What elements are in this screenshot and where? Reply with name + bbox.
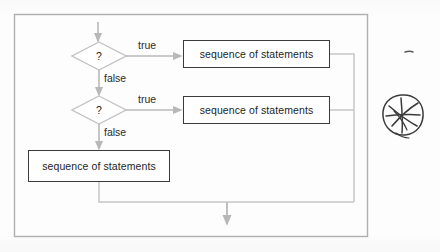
process2-label: sequence of statements [200, 104, 314, 116]
decision2-label: ? [96, 104, 102, 116]
edge-label-decision1-true: true [138, 40, 156, 51]
edge-label-decision2-true: true [138, 94, 156, 105]
edge-label-decision1-false: false [104, 73, 126, 84]
decision1-label: ? [96, 50, 102, 62]
process1-label: sequence of statements [200, 48, 314, 60]
decision2-node: ? [72, 96, 126, 124]
flowchart-graphics [0, 0, 440, 252]
process1-exit-connector [330, 54, 354, 202]
process3-label: sequence of statements [42, 160, 156, 172]
process3-box: sequence of statements [28, 150, 170, 182]
handwritten-scribble-annotation [383, 95, 423, 138]
pen-tick-mark [405, 51, 413, 52]
figure-canvas: ? ? sequence of statements sequence of s… [0, 0, 440, 252]
process2-box: sequence of statements [183, 96, 330, 124]
decision1-node: ? [72, 42, 126, 70]
edge-label-decision2-false: false [104, 127, 126, 138]
process1-box: sequence of statements [183, 40, 330, 68]
process3-exit-connector [99, 182, 354, 202]
